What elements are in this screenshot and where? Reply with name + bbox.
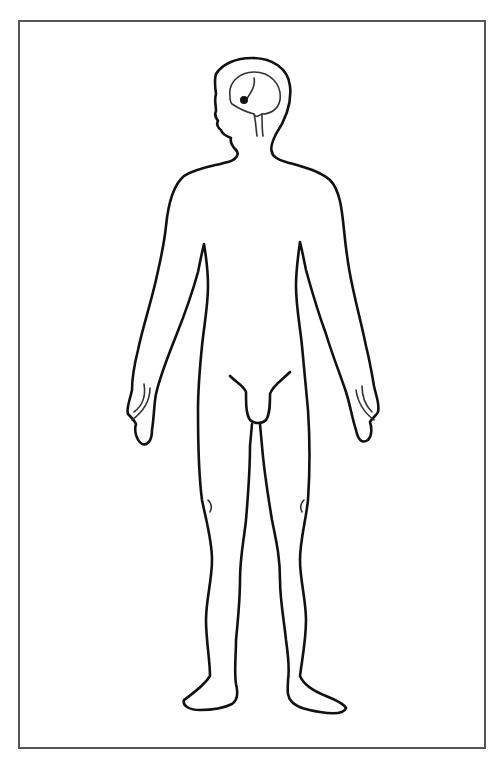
body-outline-left: [127, 150, 252, 710]
human-body-diagram: [0, 0, 497, 758]
left-hand-fingers: [132, 384, 150, 420]
brain-nucleus-dot: [240, 96, 248, 104]
brain-sulcus: [246, 78, 254, 100]
groin-outline: [230, 372, 290, 423]
left-knee-mark: [208, 500, 211, 512]
brain-outline: [230, 72, 280, 116]
right-hand-fingers: [356, 386, 374, 420]
brainstem: [254, 114, 263, 136]
right-knee-mark: [301, 500, 304, 512]
body-outline-right: [260, 152, 379, 713]
